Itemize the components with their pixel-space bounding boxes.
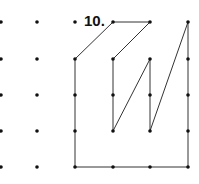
grid-dot — [73, 57, 77, 61]
grid-dot — [35, 93, 39, 97]
grid-dot — [186, 57, 190, 61]
grid-dot — [148, 129, 152, 133]
grid-dot — [0, 20, 3, 24]
grid-dot — [35, 57, 39, 61]
grid-dot — [0, 57, 3, 61]
grid-dot — [186, 20, 190, 24]
grid-dot — [111, 57, 115, 61]
grid-dot — [186, 129, 190, 133]
grid-dot — [73, 165, 77, 169]
grid-dot — [148, 20, 152, 24]
grid-dot — [0, 165, 3, 169]
grid-dot — [35, 165, 39, 169]
figure-number-label: 10. — [84, 12, 105, 29]
grid-dot — [186, 165, 190, 169]
grid-dot — [111, 129, 115, 133]
grid-dot — [111, 93, 115, 97]
figure-outline — [75, 22, 188, 167]
grid-dot — [0, 129, 3, 133]
grid-dot — [35, 129, 39, 133]
grid-dot — [73, 20, 77, 24]
grid-dot — [35, 20, 39, 24]
grid-dot — [148, 57, 152, 61]
grid-dot — [73, 93, 77, 97]
grid-dot — [111, 165, 115, 169]
grid-dot — [148, 165, 152, 169]
figure-path — [75, 22, 188, 167]
grid-dot — [111, 20, 115, 24]
grid-dot — [148, 93, 152, 97]
grid-dot — [186, 93, 190, 97]
grid-dot — [0, 93, 3, 97]
grid-dot — [73, 129, 77, 133]
grid-dots — [0, 20, 190, 169]
dot-grid-figure: 10. — [0, 0, 199, 184]
